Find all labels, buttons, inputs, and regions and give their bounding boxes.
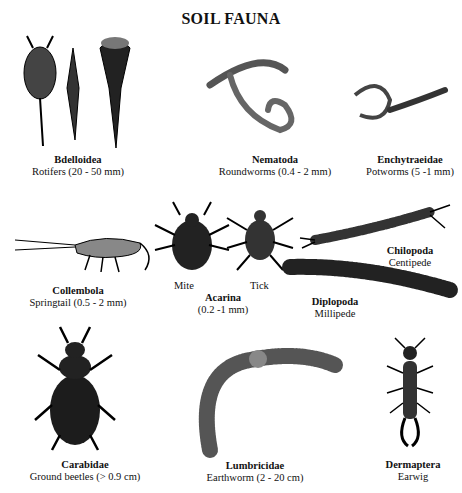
earthworm-illustration <box>190 340 345 455</box>
label-collembola: Collembola Springtail (0.5 - 2 mm) <box>29 285 126 309</box>
label-mite: Mite <box>174 280 194 291</box>
label-lumbricidae: Lumbricidae Earthworm (2 - 20 cm) <box>207 460 304 484</box>
earwig-illustration <box>375 338 445 448</box>
label-tick: Tick <box>250 280 269 291</box>
diagram-title: SOIL FAUNA <box>0 10 462 28</box>
label-carabidae: Carabidae Ground beetles (> 0.9 cm) <box>30 459 141 483</box>
springtail-illustration <box>15 225 150 275</box>
label-enchytraeidae: Enchytraeidae Potworms (5 -1 mm) <box>366 154 454 178</box>
millipede-illustration <box>285 255 460 300</box>
label-bdelloidea: Bdelloidea Rotifers (20 - 50 mm) <box>32 154 124 178</box>
centipede-illustration <box>300 200 460 255</box>
label-diplopoda: Diplopoda Millipede <box>312 296 359 320</box>
potworm-illustration <box>350 80 450 140</box>
rotifer-illustration <box>15 28 145 153</box>
nematode-illustration <box>200 55 310 145</box>
label-nematoda: Nematoda Roundworms (0.4 - 2 mm) <box>219 154 331 178</box>
ground-beetle-illustration <box>30 325 120 455</box>
mite-illustration <box>155 200 230 280</box>
label-dermaptera: Dermaptera Earwig <box>386 459 441 483</box>
label-acarina: Acarina (0.2 -1 mm) <box>198 292 248 316</box>
